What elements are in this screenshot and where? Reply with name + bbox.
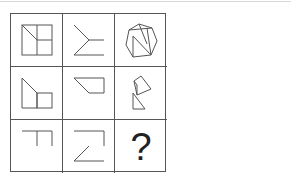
cell-r1-c1 [11,14,63,67]
heptagon-figure [115,14,167,67]
cell-r2-c1 [11,67,63,120]
cell-r2-c2 [63,67,115,120]
cell-r2-c3 [115,67,167,120]
cell-r3-c3: ? [115,120,167,173]
flag-figure [115,67,167,120]
chevron-lines-figure [63,14,115,67]
question-mark: ? [115,120,167,173]
trapezoid-square-figure [11,67,63,120]
cell-r3-c2 [63,120,115,173]
cell-r1-c2 [63,14,115,67]
quadrant-square-figure [11,14,63,67]
t-lines-figure [11,120,63,173]
puzzle-grid: ? [10,13,166,172]
right-trapezoid-figure [63,67,115,120]
top-divider [0,1,291,2]
z-lines-figure [63,120,115,173]
cell-r3-c1 [11,120,63,173]
cell-r1-c3 [115,14,167,67]
